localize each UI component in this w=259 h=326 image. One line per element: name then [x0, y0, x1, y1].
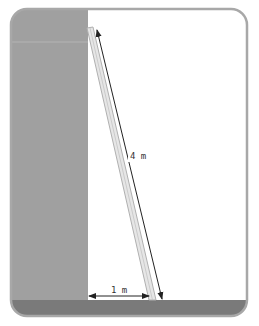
wall [11, 9, 88, 301]
floor [11, 300, 247, 316]
ladder-diagram: 4 m 1 m [0, 0, 259, 326]
base-distance-label: 1 m [111, 285, 127, 295]
ladder-length-label: 4 m [130, 151, 146, 161]
